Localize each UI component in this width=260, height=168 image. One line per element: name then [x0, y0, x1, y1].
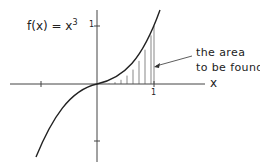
- x-tick-label: 1: [151, 88, 156, 97]
- area-hatching: [103, 26, 154, 84]
- area-annotation: the area to be found: [196, 45, 260, 75]
- annotation-line-2: to be found: [196, 60, 260, 75]
- arrow-head: [154, 63, 160, 68]
- y-tick-label: 1: [89, 20, 94, 29]
- annotation-arrow: [156, 56, 192, 66]
- annotation-line-1: the area: [196, 45, 260, 60]
- x-axis-label: x: [210, 76, 217, 90]
- function-label: f(x) = x3: [27, 18, 78, 33]
